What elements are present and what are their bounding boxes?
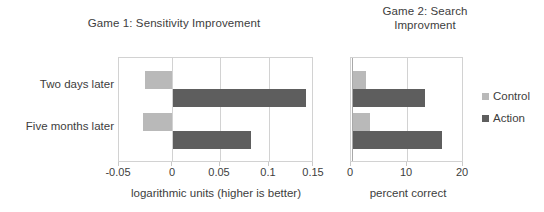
chart1-x-axis-label: logarithmic units (higher is better) xyxy=(100,187,332,199)
chart1-gridline-0.1 xyxy=(269,58,270,161)
chart2-tick-label-20: 20 xyxy=(440,166,484,178)
category-label-two-days-later: Two days later xyxy=(4,78,114,90)
chart1-title: Game 1: Sensitivity Improvement xyxy=(52,16,296,30)
legend-item-action: Action xyxy=(482,107,542,129)
chart1-tick-label-0: 0 xyxy=(150,166,194,178)
chart1-bar-control-two-days-later xyxy=(145,71,172,89)
chart2-title: Game 2: Search Improvment xyxy=(356,4,494,32)
category-label-five-months-later: Five months later xyxy=(4,120,114,132)
chart2-bar-action-two-days-later xyxy=(353,89,425,107)
chart1-bar-control-five-months-later xyxy=(143,113,172,131)
chart1-tick-label-005: 0.05 xyxy=(197,166,241,178)
legend-label-control: Control xyxy=(493,90,530,102)
chart1-bar-action-five-months-later xyxy=(173,131,251,149)
chart2-plot-area xyxy=(350,57,463,162)
chart1-bar-action-two-days-later xyxy=(173,89,306,107)
figure-two-panel-bar-charts: Game 1: Sensitivity Improvement Game 2: … xyxy=(0,0,544,212)
chart2-bar-action-five-months-later xyxy=(353,131,442,149)
chart2-bar-control-two-days-later xyxy=(353,71,366,89)
legend-item-control: Control xyxy=(482,85,542,107)
chart1-tick-label-neg005: -0.05 xyxy=(96,166,140,178)
chart2-bar-control-five-months-later xyxy=(353,113,370,131)
legend-swatch-action-icon xyxy=(482,115,489,122)
chart2-x-axis-label: percent correct xyxy=(352,187,464,199)
chart1-tick-label-01: 0.1 xyxy=(246,166,290,178)
chart2-tick-label-10: 10 xyxy=(384,166,428,178)
chart1-plot-area xyxy=(118,57,313,162)
chart2-tick-label-0: 0 xyxy=(328,166,372,178)
legend-label-action: Action xyxy=(493,112,525,124)
legend-swatch-control-icon xyxy=(482,93,489,100)
legend: Control Action xyxy=(482,85,542,129)
